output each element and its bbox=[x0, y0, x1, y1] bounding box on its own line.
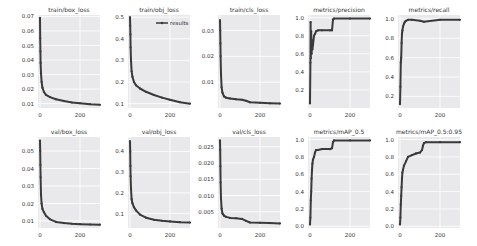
y-tick-label: 0.01 bbox=[22, 101, 34, 107]
data-marker bbox=[349, 139, 351, 141]
x-tick-label: 0 bbox=[38, 112, 42, 118]
data-marker bbox=[45, 94, 47, 96]
x-tick-label: 200 bbox=[255, 232, 266, 238]
data-marker bbox=[219, 19, 221, 21]
data-marker bbox=[419, 20, 421, 22]
results-figure: 0.010.020.030.040.050.060.070200train/bo… bbox=[0, 0, 477, 246]
data-marker bbox=[40, 72, 42, 74]
y-tick-label: 0.01 bbox=[22, 218, 34, 224]
data-marker bbox=[45, 215, 47, 217]
y-tick-label: 0.03 bbox=[202, 28, 215, 34]
x-tick-label: 0 bbox=[398, 232, 402, 238]
y-tick-label: 0.2 bbox=[115, 79, 124, 85]
y-tick-label: 1.0 bbox=[385, 137, 394, 143]
data-marker bbox=[235, 217, 237, 219]
data-marker bbox=[245, 100, 247, 102]
data-marker bbox=[399, 86, 401, 88]
data-marker bbox=[131, 202, 133, 204]
y-tick-label: 0.6 bbox=[385, 55, 394, 61]
y-tick-label: 0.03 bbox=[22, 72, 35, 78]
subplot-train-obj-loss: 0.10.20.30.40.50200train/obj_lossresults bbox=[115, 6, 191, 118]
y-tick-label: 0.5 bbox=[115, 14, 124, 20]
data-marker bbox=[153, 219, 155, 221]
data-marker bbox=[40, 62, 42, 64]
y-tick-label: 0.02 bbox=[202, 53, 214, 59]
data-marker bbox=[131, 198, 133, 200]
plot-area bbox=[398, 15, 460, 108]
data-marker bbox=[39, 37, 41, 39]
data-marker bbox=[99, 104, 101, 106]
data-marker bbox=[309, 217, 311, 219]
data-marker bbox=[223, 95, 225, 97]
data-marker bbox=[129, 165, 131, 167]
data-marker bbox=[279, 222, 281, 224]
data-marker bbox=[129, 25, 131, 27]
data-marker bbox=[321, 148, 323, 150]
data-marker bbox=[135, 209, 137, 211]
data-marker bbox=[41, 208, 43, 210]
data-marker bbox=[130, 175, 132, 177]
data-marker bbox=[139, 213, 141, 215]
plot-area bbox=[218, 15, 280, 108]
data-marker bbox=[309, 102, 311, 104]
data-marker bbox=[220, 55, 222, 57]
subplot-train-cls-loss: 0.010.020.030200train/cls_loss bbox=[202, 6, 281, 118]
data-marker bbox=[245, 220, 247, 222]
data-marker bbox=[179, 221, 181, 223]
data-marker bbox=[145, 217, 147, 219]
data-marker bbox=[133, 81, 135, 83]
data-marker bbox=[71, 223, 73, 225]
data-marker bbox=[169, 99, 171, 101]
data-marker bbox=[189, 222, 191, 224]
data-marker bbox=[369, 18, 371, 20]
y-tick-label: 0.2 bbox=[115, 190, 124, 196]
data-marker bbox=[423, 142, 425, 144]
data-marker bbox=[403, 165, 405, 167]
data-marker bbox=[161, 220, 163, 222]
x-tick-label: 200 bbox=[345, 112, 356, 118]
data-marker bbox=[310, 21, 312, 23]
x-tick-label: 200 bbox=[165, 112, 176, 118]
subplot-title: val/cls_loss bbox=[232, 128, 266, 136]
data-marker bbox=[399, 217, 401, 219]
data-marker bbox=[421, 149, 423, 151]
data-marker bbox=[331, 29, 333, 31]
data-marker bbox=[219, 139, 221, 141]
data-marker bbox=[315, 149, 317, 151]
plot-area bbox=[308, 15, 370, 108]
y-tick-label: 0.02 bbox=[22, 201, 34, 207]
data-marker bbox=[179, 101, 181, 103]
data-marker bbox=[223, 215, 225, 217]
y-tick-label: 1.0 bbox=[295, 137, 304, 143]
x-tick-label: 0 bbox=[218, 232, 222, 238]
plot-area bbox=[38, 15, 100, 108]
y-tick-label: 0.005 bbox=[198, 209, 214, 215]
data-marker bbox=[221, 212, 223, 214]
legend-label: results bbox=[170, 20, 189, 26]
subplot-title: metrics/precision bbox=[313, 6, 365, 14]
data-marker bbox=[333, 139, 335, 141]
data-marker bbox=[269, 102, 271, 104]
data-marker bbox=[219, 29, 221, 31]
y-tick-label: 0.4 bbox=[295, 189, 304, 195]
y-tick-label: 0.015 bbox=[198, 176, 214, 182]
data-marker bbox=[63, 100, 65, 102]
data-marker bbox=[312, 44, 314, 46]
data-marker bbox=[312, 158, 314, 160]
data-marker bbox=[459, 19, 461, 21]
data-marker bbox=[400, 61, 402, 63]
data-marker bbox=[225, 216, 227, 218]
y-tick-label: 0.01 bbox=[202, 79, 214, 85]
data-marker bbox=[423, 21, 425, 23]
subplot-metrics-precision: 0.20.40.60.81.00200metrics/precision bbox=[295, 6, 371, 118]
data-marker bbox=[79, 102, 81, 104]
data-marker bbox=[317, 149, 319, 151]
x-tick-label: 0 bbox=[218, 112, 222, 118]
data-marker bbox=[131, 70, 133, 72]
data-marker bbox=[39, 150, 41, 152]
data-marker bbox=[422, 145, 424, 147]
y-tick-label: 0.1 bbox=[115, 211, 124, 217]
data-marker bbox=[401, 42, 403, 44]
data-marker bbox=[249, 221, 251, 223]
subplot-title: metrics/mAP_0.5 bbox=[314, 128, 365, 136]
